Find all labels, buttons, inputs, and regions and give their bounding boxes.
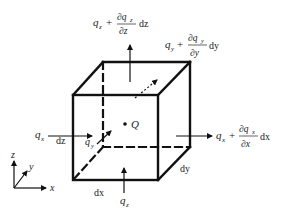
svg-text:x: x	[40, 135, 45, 143]
svg-text:dz: dz	[139, 18, 149, 29]
svg-text:∂q: ∂q	[117, 12, 127, 22]
svg-text:+: +	[177, 38, 183, 50]
svg-text:y: y	[200, 37, 204, 44]
svg-text:∂q: ∂q	[188, 33, 198, 43]
svg-text:z: z	[125, 201, 129, 209]
cube-edge-top-right	[158, 62, 190, 95]
svg-text:dx: dx	[260, 131, 270, 142]
svg-text:∂z: ∂z	[119, 26, 128, 36]
svg-text:x: x	[221, 136, 226, 144]
point-q-dot	[123, 122, 127, 126]
svg-text:∂y: ∂y	[190, 48, 200, 58]
label-qz-top: q z + ∂q z ∂z dz	[93, 12, 149, 36]
svg-text:+: +	[106, 16, 112, 28]
label-qy-inner: q y	[85, 136, 94, 149]
label-qy-top: q y + ∂q y ∂y dy	[165, 33, 219, 58]
label-qz-bottom: q z	[120, 194, 129, 209]
svg-text:+: +	[229, 129, 235, 141]
axis-y-label: y	[28, 161, 34, 172]
svg-text:y: y	[170, 45, 175, 53]
svg-text:dy: dy	[209, 40, 219, 51]
svg-text:z: z	[129, 16, 133, 23]
svg-text:∂q: ∂q	[239, 124, 249, 134]
dim-label-dy: dy	[180, 163, 190, 174]
cube-edge-top-left	[73, 62, 103, 95]
dim-label-dx: dx	[94, 187, 104, 198]
axis-z-label: z	[10, 149, 15, 160]
svg-text:z: z	[98, 23, 102, 31]
svg-text:y: y	[90, 142, 94, 149]
point-q-label: Q	[131, 118, 139, 130]
svg-text:x: x	[251, 128, 255, 135]
label-qx-left: q x	[35, 128, 45, 143]
svg-text:∂x: ∂x	[241, 139, 251, 149]
axis-y	[14, 171, 27, 188]
dim-label-dz: dz	[56, 135, 66, 146]
diagram-canvas: Q q z + ∂q z ∂z dz q y + ∂q y ∂y dy q x …	[0, 0, 284, 213]
axis-x-label: x	[49, 182, 55, 193]
cube-hidden-edge-diagonal	[73, 147, 103, 180]
label-qx-right: q x + ∂q x ∂x dx	[216, 124, 270, 149]
svg-text:q: q	[85, 136, 90, 147]
